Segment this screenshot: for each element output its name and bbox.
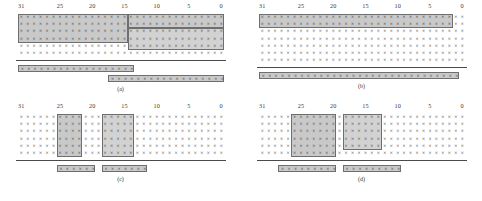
bit-grid-row: ×××××××××××××××××××××××××××××××× [0, 150, 241, 157]
bar-cell: × [454, 73, 460, 80]
tick-label-0: 0 [461, 1, 464, 10]
tick-label-0: 0 [220, 101, 223, 110]
bit-grid-row: ×××××××××××××××××××××××××××××××× [241, 121, 482, 128]
bit-cell: × [459, 28, 465, 35]
bit-grid-row: ×××××××××××××××××××××××××××××××× [241, 28, 482, 35]
operand-bar-left: ×××××× [57, 165, 96, 173]
bit-grid: ××××××××××××××××××××××××××××××××××××××××… [241, 114, 482, 157]
bit-cell: × [218, 50, 224, 57]
bit-grid-row: ×××××××××××××××××××××××××××××××× [0, 143, 241, 150]
bit-grid-row: ×××××××××××××××××××××××××××××××× [241, 143, 482, 150]
bit-grid-row: ×××××××××××××××××××××××××××××××× [0, 121, 241, 128]
bit-grid-row: ×××××××××××××××××××××××××××××××× [241, 150, 482, 157]
panel-d: 312520151050××××××××××××××××××××××××××××… [241, 100, 482, 201]
bit-cell: × [218, 128, 224, 135]
bit-axis-ticks: 312520151050 [0, 0, 241, 12]
bit-cell: × [218, 14, 224, 21]
bit-grid-row: ×××××××××××××××××××××××××××××××× [241, 136, 482, 143]
bit-grid-row: ×××××××××××××××××××××××××××××××× [0, 50, 241, 57]
bit-cell: × [459, 36, 465, 43]
tick-label-5: 5 [428, 101, 431, 110]
bit-cell: × [459, 121, 465, 128]
tick-label-20: 20 [89, 101, 95, 110]
figure-root: 312520151050××××××××××××××××××××××××××××… [0, 0, 482, 201]
panel-a: 312520151050××××××××××××××××××××××××××××… [0, 0, 241, 100]
bit-cell: × [459, 14, 465, 21]
tick-label-5: 5 [187, 101, 190, 110]
bit-grid-row: ×××××××××××××××××××××××××××××××× [0, 136, 241, 143]
bit-cell: × [218, 136, 224, 143]
panel-c: 312520151050××××××××××××××××××××××××××××… [0, 100, 241, 201]
bit-cell: × [218, 114, 224, 121]
tick-label-25: 25 [57, 1, 63, 10]
bit-axis-ticks: 312520151050 [241, 0, 482, 12]
tick-label-20: 20 [89, 1, 95, 10]
bit-grid-row: ×××××××××××××××××××××××××××××××× [0, 28, 241, 35]
tick-label-10: 10 [394, 1, 400, 10]
bit-grid: ××××××××××××××××××××××××××××××××××××××××… [241, 14, 482, 64]
operand-bar-left: ××××××××× [278, 165, 336, 173]
tick-label-15: 15 [121, 1, 127, 10]
bit-cell: × [218, 150, 224, 157]
bit-grid-row: ×××××××××××××××××××××××××××××××× [241, 128, 482, 135]
bit-grid-row: ×××××××××××××××××××××××××××××××× [0, 36, 241, 43]
bar-cell: × [90, 166, 96, 173]
bit-grid-row: ×××××××××××××××××××××××××××××××× [241, 50, 482, 57]
tick-label-10: 10 [394, 101, 400, 110]
bit-grid: ××××××××××××××××××××××××××××××××××××××××… [0, 14, 241, 57]
tick-label-25: 25 [298, 101, 304, 110]
axis-rule [257, 67, 467, 68]
bit-cell: × [218, 43, 224, 50]
bit-grid-row: ×××××××××××××××××××××××××××××××× [241, 114, 482, 121]
bit-grid-row: ×××××××××××××××××××××××××××××××× [241, 21, 482, 28]
bar-cell: × [395, 166, 401, 173]
bit-grid-row: ×××××××××××××××××××××××××××××××× [0, 114, 241, 121]
tick-label-10: 10 [153, 101, 159, 110]
bit-grid-row: ×××××××××××××××××××××××××××××××× [0, 128, 241, 135]
panel-caption-c: (c) [0, 175, 241, 183]
axis-rule [16, 60, 226, 61]
tick-label-20: 20 [330, 101, 336, 110]
bit-cell: × [459, 21, 465, 28]
bit-cell: × [218, 143, 224, 150]
tick-label-31: 31 [259, 1, 265, 10]
tick-label-25: 25 [298, 1, 304, 10]
bit-axis-ticks: 312520151050 [241, 100, 482, 112]
bit-cell: × [218, 21, 224, 28]
tick-label-15: 15 [362, 101, 368, 110]
operand-bar-right: ××××××× [102, 165, 147, 173]
bit-cell: × [459, 143, 465, 150]
bit-grid-row: ×××××××××××××××××××××××××××××××× [0, 14, 241, 21]
bit-cell: × [459, 114, 465, 121]
operand-bar-right: ××××××××× [343, 165, 401, 173]
axis-rule [257, 160, 467, 161]
tick-label-15: 15 [121, 101, 127, 110]
bit-cell: × [459, 57, 465, 64]
bit-grid-row: ×××××××××××××××××××××××××××××××× [241, 43, 482, 50]
bit-axis-ticks: 312520151050 [0, 100, 241, 112]
bar-cell: × [219, 76, 225, 83]
tick-label-5: 5 [428, 1, 431, 10]
bit-cell: × [459, 43, 465, 50]
tick-label-31: 31 [18, 1, 24, 10]
bit-cell: × [459, 50, 465, 57]
bit-cell: × [218, 28, 224, 35]
operand-bar-full: ××××××××××××××××××××××××××××××× [259, 72, 459, 80]
bit-grid-row: ×××××××××××××××××××××××××××××××× [241, 14, 482, 21]
axis-rule [16, 160, 226, 161]
bit-grid-row: ×××××××××××××××××××××××××××××××× [0, 43, 241, 50]
bit-cell: × [459, 150, 465, 157]
bit-grid-row: ×××××××××××××××××××××××××××××××× [241, 57, 482, 64]
bit-grid-row: ×××××××××××××××××××××××××××××××× [241, 36, 482, 43]
operand-bar-lower: ×××××××××××××××××× [108, 75, 224, 83]
tick-label-0: 0 [220, 1, 223, 10]
bar-cell: × [129, 66, 135, 73]
tick-label-31: 31 [259, 101, 265, 110]
tick-label-20: 20 [330, 1, 336, 10]
tick-label-10: 10 [153, 1, 159, 10]
tick-label-15: 15 [362, 1, 368, 10]
panel-caption-a: (a) [0, 85, 241, 93]
bar-cell: × [142, 166, 148, 173]
bit-cell: × [218, 121, 224, 128]
bar-cell: × [331, 166, 337, 173]
